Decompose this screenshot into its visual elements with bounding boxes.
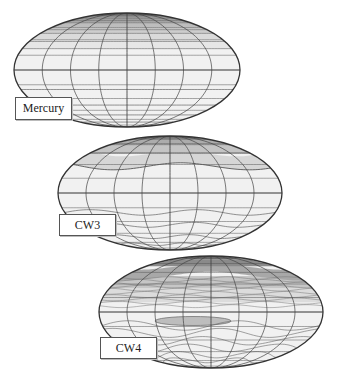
projection-maps bbox=[0, 0, 342, 386]
map-label-cw4: CW4 bbox=[100, 337, 157, 359]
map-label-mercury: Mercury bbox=[15, 97, 72, 120]
contour-minimum bbox=[155, 317, 231, 326]
map-label-cw3: CW3 bbox=[59, 214, 116, 236]
